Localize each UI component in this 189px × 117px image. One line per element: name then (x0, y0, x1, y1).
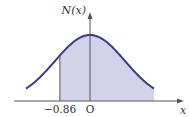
y-axis-arrow-icon (88, 12, 93, 19)
normal-curve-chart: N(x) x −0.86 O (0, 0, 189, 117)
tick-label-neg-086: −0.86 (44, 103, 76, 115)
origin-label: O (86, 103, 95, 115)
y-axis-label: N(x) (61, 4, 86, 17)
x-axis-label: x (180, 104, 187, 117)
shaded-area (60, 35, 154, 101)
x-axis-arrow-icon (177, 99, 184, 104)
